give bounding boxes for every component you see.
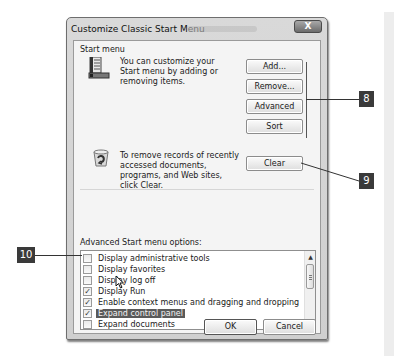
callout-9: 9 bbox=[359, 173, 374, 189]
callout-9-leader bbox=[0, 0, 394, 356]
callout-10: 10 bbox=[17, 247, 35, 263]
callout-10-leader bbox=[35, 255, 82, 256]
